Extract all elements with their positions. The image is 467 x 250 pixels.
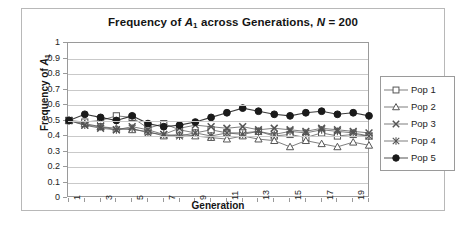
- series-pop-2: [65, 117, 372, 150]
- x-axis-title: Generation: [67, 200, 369, 211]
- legend-item-pop-1[interactable]: Pop 1: [383, 81, 451, 98]
- y-axis-tick-label: 0.1: [47, 177, 60, 187]
- y-axis-tick-label: 0.4: [47, 130, 60, 140]
- x-axis-tick-label: 15: [293, 190, 303, 200]
- y-axis-tick-label: 0.7: [47, 84, 60, 94]
- data-point-filled-circle: [81, 111, 88, 118]
- legend-item-pop-5[interactable]: Pop 5: [383, 149, 451, 166]
- chart-title-post: = 200: [325, 16, 358, 28]
- chart-title-n-symbol: N: [317, 16, 325, 28]
- plot-area: [67, 42, 369, 197]
- y-axis-tick-labels: 00.10.20.30.40.50.60.70.80.91: [22, 42, 65, 197]
- gridline: [68, 105, 368, 106]
- chart-legend: Pop 1Pop 2Pop 3Pop 4Pop 5: [380, 76, 455, 171]
- gridline: [68, 167, 368, 168]
- x-axis-tick-label: 19: [356, 190, 366, 200]
- data-point-open-triangle: [350, 139, 357, 145]
- data-point-filled-circle: [318, 108, 325, 115]
- chart-title-allele-symbol: A: [185, 16, 193, 28]
- chart-frame: Frequency of A1 across Generations, N = …: [21, 8, 445, 211]
- legend-marker-cross-x-icon: [383, 117, 409, 131]
- gridline: [68, 183, 368, 184]
- chart-title-pre: Frequency of: [108, 16, 185, 28]
- x-axis-tick-label: 13: [261, 190, 271, 200]
- y-axis-tick-label: 0.6: [47, 99, 60, 109]
- gridline: [68, 59, 368, 60]
- gridline: [68, 121, 368, 122]
- data-point-filled-circle: [223, 109, 230, 116]
- legend-marker-open-triangle-icon: [383, 100, 409, 114]
- legend-item-label: Pop 5: [409, 152, 436, 163]
- data-point-filled-circle: [287, 112, 294, 119]
- data-point-open-square: [393, 87, 399, 93]
- legend-item-label: Pop 1: [409, 84, 436, 95]
- data-point-filled-circle: [129, 112, 136, 119]
- data-point-open-triangle: [286, 143, 293, 149]
- chart-title: Frequency of A1 across Generations, N = …: [22, 16, 444, 28]
- legend-item-pop-4[interactable]: Pop 4: [383, 132, 451, 149]
- legend-item-pop-2[interactable]: Pop 2: [383, 98, 451, 115]
- y-axis-tick-label: 0.2: [47, 161, 60, 171]
- legend-item-label: Pop 2: [409, 101, 436, 112]
- data-point-filled-circle: [176, 122, 183, 129]
- legend-item-pop-3[interactable]: Pop 3: [383, 115, 451, 132]
- gridline: [68, 90, 368, 91]
- chart-title-mid: across Generations,: [198, 16, 317, 28]
- y-axis-tick-label: 0.5: [47, 115, 60, 125]
- chart-title-allele-subscript: 1: [193, 21, 198, 30]
- data-point-filled-circle: [271, 111, 278, 118]
- data-point-filled-circle: [393, 154, 399, 160]
- y-axis-tick-label: 0.3: [47, 146, 60, 156]
- legend-marker-open-square-icon: [383, 83, 409, 97]
- legend-item-label: Pop 3: [409, 118, 436, 129]
- legend-item-label: Pop 4: [409, 135, 436, 146]
- x-axis-tick-label: 17: [325, 190, 335, 200]
- gridline: [68, 152, 368, 153]
- data-point-filled-circle: [334, 111, 341, 118]
- data-point-filled-circle: [302, 109, 309, 116]
- legend-marker-filled-circle-icon: [383, 151, 409, 165]
- data-point-filled-circle: [350, 109, 357, 116]
- y-axis-tick-label: 0.8: [47, 68, 60, 78]
- y-axis-tick-label: 0: [55, 192, 60, 202]
- legend-marker-asterisk-icon: [383, 134, 409, 148]
- data-point-filled-circle: [255, 108, 262, 115]
- gridline: [68, 74, 368, 75]
- data-point-filled-circle: [366, 112, 373, 119]
- gridline: [68, 136, 368, 137]
- data-point-filled-circle: [160, 123, 167, 130]
- y-axis-tick-label: 1: [55, 37, 60, 47]
- y-axis-tick-label: 0.9: [47, 53, 60, 63]
- x-axis-tick-label: 11: [230, 191, 240, 200]
